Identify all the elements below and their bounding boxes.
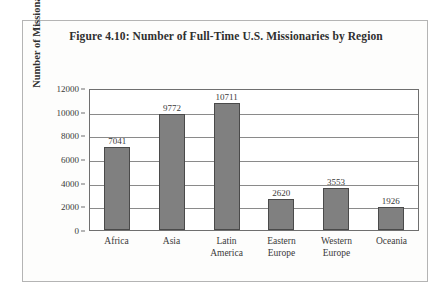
y-tick-label: 8000 — [61, 131, 79, 141]
bar-value-label: 2620 — [272, 188, 290, 198]
y-tick-label: 0 — [75, 226, 80, 236]
x-axis-label-line: Oceania — [364, 235, 419, 247]
bar[interactable]: 3553 — [323, 188, 349, 230]
y-tick-mark — [81, 183, 85, 184]
y-tick-mark — [81, 160, 85, 161]
x-axis-label-line: Europe — [309, 247, 364, 259]
bar-slot: 7041 — [90, 90, 145, 230]
bar-slot: 2620 — [254, 90, 309, 230]
x-axis-label: WesternEurope — [309, 235, 364, 259]
x-axis-label-line: Europe — [254, 247, 309, 259]
bar[interactable]: 1926 — [378, 207, 404, 230]
y-tick-label: 4000 — [61, 179, 79, 189]
chart-title: Figure 4.10: Number of Full-Time U.S. Mi… — [61, 29, 391, 44]
y-axis-title: Number of Missionaries — [29, 0, 45, 105]
y-tick-label: 6000 — [61, 155, 79, 165]
bar-slot: 1926 — [363, 90, 418, 230]
y-tick-label: 10000 — [57, 108, 80, 118]
y-tick-label: 2000 — [61, 202, 79, 212]
x-axis-labels: AfricaAsiaLatinAmericaEasternEuropeWeste… — [89, 235, 419, 259]
x-axis-label-line: Asia — [144, 235, 199, 247]
bar-value-label: 7041 — [108, 136, 126, 146]
bar-slot: 3553 — [309, 90, 364, 230]
bar-value-label: 3553 — [327, 177, 345, 187]
x-axis-label: LatinAmerica — [199, 235, 254, 259]
x-axis-label-line: Western — [309, 235, 364, 247]
y-tick-mark — [81, 89, 85, 90]
bar[interactable]: 2620 — [268, 199, 294, 230]
x-axis-label-line: Eastern — [254, 235, 309, 247]
bars-layer: 7041977210711262035531926 — [90, 90, 418, 230]
figure-frame: Figure 4.10: Number of Full-Time U.S. Mi… — [22, 20, 428, 282]
y-tick-mark — [81, 112, 85, 113]
x-axis-label: Africa — [89, 235, 144, 259]
y-tick-label: 12000 — [57, 84, 80, 94]
y-axis-ticks: 020004000600080001000012000 — [45, 83, 85, 237]
x-axis-label-line: America — [199, 247, 254, 259]
y-tick-mark — [81, 136, 85, 137]
bar-value-label: 1926 — [382, 196, 400, 206]
bar[interactable]: 10711 — [214, 103, 240, 230]
bar-value-label: 9772 — [163, 103, 181, 113]
bar[interactable]: 9772 — [159, 114, 185, 230]
bar[interactable]: 7041 — [104, 147, 130, 230]
bar-slot: 10711 — [199, 90, 254, 230]
x-axis-label-line: Africa — [89, 235, 144, 247]
x-axis-label: Oceania — [364, 235, 419, 259]
y-tick-mark — [81, 207, 85, 208]
bar-value-label: 10711 — [216, 92, 238, 102]
x-axis-label: EasternEurope — [254, 235, 309, 259]
x-axis-label-line: Latin — [199, 235, 254, 247]
y-tick-mark — [81, 231, 85, 232]
bar-slot: 9772 — [145, 90, 200, 230]
x-axis-label: Asia — [144, 235, 199, 259]
plot-area: 7041977210711262035531926 — [89, 89, 419, 231]
